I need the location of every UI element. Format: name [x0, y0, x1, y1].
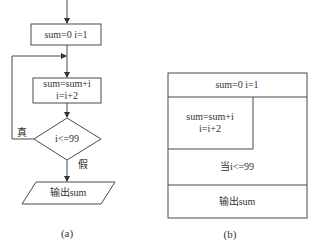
body-line2-text: i=i+2 [56, 90, 78, 102]
ns-body-line1-text: sum=sum+i [186, 111, 233, 123]
output-text: 输出sum [50, 187, 87, 199]
caption-a: (a) [61, 227, 73, 239]
ns-output-text: 输出sum [219, 196, 256, 208]
ns-init-text: sum=0 i=1 [215, 79, 258, 91]
caption-b: (b) [224, 228, 237, 240]
ns-body-line2-text: i=i+2 [199, 123, 221, 135]
init-box-text: sum=0 i=1 [44, 29, 87, 41]
body-line1-text: sum=sum+i [43, 78, 90, 90]
condition-text: i<=99 [55, 133, 79, 145]
false-label: 假 [78, 159, 88, 171]
true-label: 真 [17, 127, 27, 139]
ns-loop-condition-text: 当i<=99 [220, 161, 254, 173]
